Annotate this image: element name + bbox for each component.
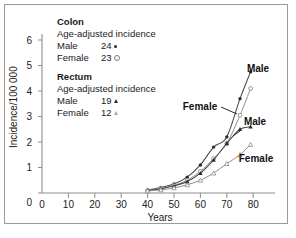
y-axis: 6 5 4 3 2 1 0 Incidence/100 000 bbox=[8, 34, 42, 208]
y-tick-2: 2 bbox=[26, 137, 32, 148]
data-point bbox=[238, 113, 242, 117]
y-tick-6: 6 bbox=[26, 35, 32, 46]
data-point bbox=[249, 87, 253, 91]
legend-rectum-male-row: Male19 bbox=[57, 95, 197, 107]
series-rectum-female bbox=[145, 142, 252, 192]
curve-label-rectum-male: Male bbox=[244, 116, 267, 127]
y-tick-0: 0 bbox=[26, 197, 32, 208]
curve-label-rectum-female: Female bbox=[239, 153, 274, 164]
data-point bbox=[248, 142, 252, 146]
x-tick-60: 60 bbox=[195, 199, 207, 210]
legend-rectum-male-value: 19 bbox=[101, 95, 112, 107]
legend-colon-male-row: Male24 bbox=[57, 40, 197, 52]
x-tick-0: 0 bbox=[39, 199, 45, 210]
data-point bbox=[238, 127, 242, 131]
filled-circle-icon bbox=[114, 45, 117, 48]
series-line bbox=[148, 145, 251, 191]
legend-colon-female-label: Female bbox=[57, 52, 101, 64]
x-axis: 0 10 20 30 40 50 60 70 80 Years bbox=[39, 193, 275, 223]
figure-container: 6 5 4 3 2 1 0 Incidence/100 000 0 10 20 … bbox=[0, 0, 296, 238]
x-tick-50: 50 bbox=[168, 199, 180, 210]
leader-line-colon-female bbox=[221, 107, 237, 114]
legend-rectum-male-label: Male bbox=[57, 95, 101, 107]
x-tick-40: 40 bbox=[142, 199, 154, 210]
legend-spacer bbox=[57, 64, 197, 71]
x-tick-20: 20 bbox=[89, 199, 101, 210]
legend-colon-female-row: Female23 bbox=[57, 52, 197, 64]
data-point bbox=[238, 97, 241, 100]
x-tick-80: 80 bbox=[248, 199, 260, 210]
legend-rectum-female-row: Female12 bbox=[57, 107, 197, 119]
filled-triangle-icon bbox=[114, 99, 118, 103]
data-point bbox=[199, 163, 202, 166]
legend-colon-title: Colon bbox=[57, 16, 197, 28]
legend-rectum-title: Rectum bbox=[57, 71, 197, 83]
legend-rectum-subtitle: Age-adjusted incidence bbox=[57, 83, 197, 95]
legend-textblock: Colon Age-adjusted incidence Male24 Fema… bbox=[57, 16, 197, 119]
open-circle-icon bbox=[114, 55, 120, 61]
open-triangle-icon bbox=[114, 111, 118, 115]
data-point bbox=[225, 135, 228, 138]
data-point bbox=[198, 178, 202, 182]
x-tick-10: 10 bbox=[63, 199, 75, 210]
data-point bbox=[212, 145, 215, 148]
legend-colon-male-value: 24 bbox=[101, 40, 112, 52]
y-tick-5: 5 bbox=[26, 60, 32, 71]
curve-label-colon-male: Male bbox=[247, 63, 270, 74]
legend-colon-subtitle: Age-adjusted incidence bbox=[57, 28, 197, 40]
legend-colon-female-value: 23 bbox=[101, 52, 112, 64]
legend-rectum-female-value: 12 bbox=[101, 107, 112, 119]
x-tick-30: 30 bbox=[116, 199, 128, 210]
legend-rectum-female-label: Female bbox=[57, 107, 101, 119]
x-tick-70: 70 bbox=[221, 199, 233, 210]
x-axis-title: Years bbox=[147, 212, 172, 223]
y-tick-1: 1 bbox=[26, 162, 32, 173]
y-tick-3: 3 bbox=[26, 111, 32, 122]
legend-colon-male-label: Male bbox=[57, 40, 101, 52]
y-axis-title: Incidence/100 000 bbox=[8, 66, 19, 148]
y-tick-4: 4 bbox=[26, 86, 32, 97]
